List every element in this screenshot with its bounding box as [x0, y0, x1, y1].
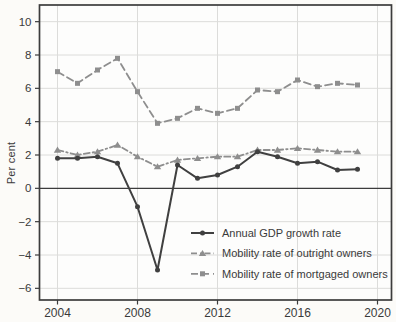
svg-text:10: 10: [19, 16, 32, 28]
x-tick-labels: 20042008201220162020: [44, 306, 391, 320]
legend-label: Annual GDP growth rate: [222, 227, 341, 239]
svg-text:6: 6: [25, 82, 31, 94]
legend-label: Mobility rate of outright owners: [222, 247, 372, 259]
svg-text:−6: −6: [18, 282, 31, 294]
svg-text:2020: 2020: [364, 306, 391, 320]
svg-text:8: 8: [25, 49, 31, 61]
gdp-mobility-line-chart: −6−4−2024681020042008201220162020Annual …: [0, 0, 396, 322]
svg-text:0: 0: [25, 182, 31, 194]
svg-text:2004: 2004: [44, 306, 71, 320]
svg-text:2012: 2012: [204, 306, 231, 320]
y-tick-labels: −6−4−20246810: [18, 16, 32, 295]
chart-figure: −6−4−2024681020042008201220162020Annual …: [0, 0, 396, 322]
svg-text:2008: 2008: [124, 306, 151, 320]
y-axis-title: Per cent: [5, 142, 17, 185]
legend-label: Mobility rate of mortgaged owners: [222, 268, 388, 280]
svg-text:4: 4: [25, 116, 32, 128]
svg-text:−4: −4: [18, 249, 32, 261]
svg-text:2016: 2016: [284, 306, 311, 320]
svg-text:2: 2: [25, 149, 31, 161]
svg-text:−2: −2: [18, 216, 31, 228]
